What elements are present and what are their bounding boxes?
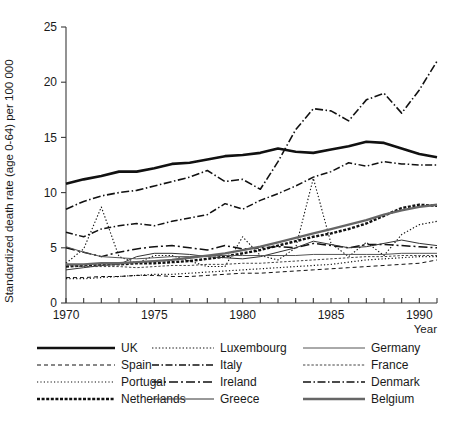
legend-item-germany[interactable]: Germany [303, 341, 420, 355]
axes [66, 27, 437, 303]
x-tick-label: 1980 [229, 308, 256, 322]
legend-label-greece: Greece [220, 392, 260, 406]
series-line-portugal [66, 257, 437, 279]
legend-item-italy[interactable]: Italy [152, 358, 242, 372]
x-axis-title: Year [414, 323, 437, 335]
legend-item-spain[interactable]: Spain [37, 358, 152, 372]
y-tick-label: 5 [50, 241, 57, 255]
line-chart: Standardized death rate (age 0-64) per 1… [0, 0, 458, 421]
y-tick-label: 10 [44, 186, 58, 200]
legend-label-denmark: Denmark [371, 375, 421, 389]
y-axis-title: Standardized death rate (age 0-64) per 1… [3, 59, 15, 303]
y-tick-label: 25 [44, 20, 58, 34]
series-line-denmark [66, 61, 437, 209]
legend-item-uk[interactable]: UK [37, 341, 138, 355]
x-tick-label: 1975 [141, 308, 168, 322]
series-line-italy [66, 162, 437, 237]
y-axis-ticks: 0510152025 [44, 20, 66, 310]
legend-item-belgium[interactable]: Belgium [303, 392, 414, 406]
legend-label-belgium: Belgium [371, 392, 414, 406]
x-tick-label: 1990 [406, 308, 433, 322]
chart-figure: Standardized death rate (age 0-64) per 1… [0, 0, 458, 421]
y-tick-label: 15 [44, 131, 58, 145]
legend-label-luxembourg: Luxembourg [220, 341, 287, 355]
legend-label-spain: Spain [121, 358, 152, 372]
chart-legend: UKLuxembourgGermanySpainItalyFrancePortu… [37, 341, 421, 406]
legend-label-italy: Italy [220, 358, 242, 372]
legend-label-germany: Germany [371, 341, 420, 355]
legend-item-luxembourg[interactable]: Luxembourg [152, 341, 287, 355]
legend-label-uk: UK [121, 341, 138, 355]
x-axis-ticks: 19701975198019851990 [53, 308, 433, 322]
legend-item-ireland[interactable]: Ireland [152, 375, 257, 389]
x-tick-label: 1985 [318, 308, 345, 322]
x-tick-label: 1970 [53, 308, 80, 322]
legend-item-france[interactable]: France [303, 358, 409, 372]
legend-item-portugal[interactable]: Portugal [37, 375, 166, 389]
y-tick-label: 20 [44, 75, 58, 89]
series-lines [66, 61, 437, 278]
legend-label-france: France [371, 358, 409, 372]
legend-label-ireland: Ireland [220, 375, 257, 389]
x-axis-minor-ticks [66, 298, 437, 303]
legend-item-denmark[interactable]: Denmark [303, 375, 421, 389]
